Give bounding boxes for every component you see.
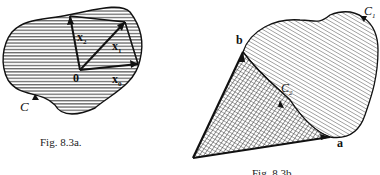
vector-x0-label: x0 (112, 73, 122, 88)
curve-c1-label: C1 (364, 5, 376, 20)
origin-label: 0 (73, 72, 79, 84)
caption-fig-b: Fig. 8.3b. (252, 168, 294, 175)
curve-c-label: C (20, 100, 29, 113)
figure-a-region (3, 7, 142, 114)
figures-svg (0, 0, 380, 175)
caption-fig-a: Fig. 8.3a. (40, 137, 82, 148)
figure-panel: x2 x1 x0 0 C Fig. 8.3a. b a C1 C2 Fig. 8… (0, 0, 380, 175)
curve-c2-label: C2 (281, 82, 293, 97)
vector-b-label: b (236, 34, 243, 46)
vector-x2-label: x2 (77, 31, 87, 46)
vector-a-label: a (337, 137, 343, 149)
vector-x1-label: x1 (112, 40, 122, 55)
